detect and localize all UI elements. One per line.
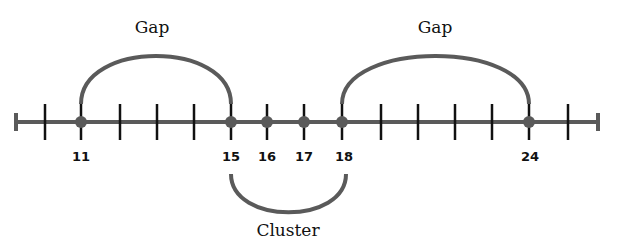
point-label: 16	[258, 149, 276, 164]
point-label: 17	[295, 149, 313, 164]
data-point-marker	[336, 116, 348, 128]
point-label: 18	[335, 149, 353, 164]
data-point-marker	[75, 116, 87, 128]
gap-label-right: Gap	[418, 17, 453, 37]
point-label: 15	[222, 149, 240, 164]
data-point-marker	[523, 116, 535, 128]
data-point-marker	[225, 116, 237, 128]
cluster-label: Cluster	[256, 220, 320, 240]
data-point-marker	[298, 116, 310, 128]
data-point-marker	[261, 116, 273, 128]
point-label: 24	[521, 149, 539, 164]
number-line-diagram: Gap Gap Cluster 11 15 16 17 18 24	[0, 0, 633, 251]
cluster-arc	[231, 174, 346, 212]
gap-arc-left	[81, 56, 231, 104]
point-label: 11	[72, 149, 90, 164]
gap-arc-right	[342, 56, 529, 104]
gap-label-left: Gap	[135, 17, 170, 37]
